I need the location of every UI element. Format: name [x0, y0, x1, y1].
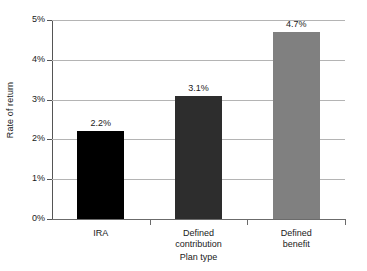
bar: [77, 131, 124, 219]
x-tick-label: Definedbenefit: [251, 228, 341, 250]
bar: [273, 32, 320, 219]
y-tick-label: 4%: [17, 55, 45, 64]
x-tick-label-line: IRA: [56, 228, 146, 239]
y-tick-mark: [47, 20, 52, 21]
x-tick-label-line: contribution: [154, 239, 244, 250]
y-tick-label: 0%: [17, 214, 45, 223]
x-tick-mark: [150, 220, 151, 225]
y-tick-label: 3%: [17, 95, 45, 104]
y-tick-mark: [47, 139, 52, 140]
y-axis-title-text: Rate of return: [5, 81, 15, 137]
y-tick-label: 2%: [17, 134, 45, 143]
y-axis-title: Rate of return: [0, 0, 20, 219]
bar: [175, 96, 222, 219]
y-tick-label: 1%: [17, 174, 45, 183]
x-axis-spine: [52, 219, 346, 220]
y-tick-mark: [47, 179, 52, 180]
bar-value-label: 3.1%: [169, 83, 229, 93]
bar-chart: Rate of return 0%1%2%3%4%5% IRADefinedco…: [0, 0, 367, 271]
x-tick-label-line: Defined: [154, 228, 244, 239]
x-tick-label-line: benefit: [251, 239, 341, 250]
bar-value-label: 2.2%: [71, 118, 131, 128]
y-tick-label: 5%: [17, 15, 45, 24]
x-tick-mark: [345, 220, 346, 225]
x-tick-label-line: Defined: [251, 228, 341, 239]
x-tick-label: Definedcontribution: [154, 228, 244, 250]
bar-value-label: 4.7%: [266, 19, 326, 29]
y-tick-mark: [47, 60, 52, 61]
x-axis-title: Plan type: [52, 252, 345, 262]
x-tick-label: IRA: [56, 228, 146, 239]
y-tick-mark: [47, 219, 52, 220]
y-tick-mark: [47, 100, 52, 101]
x-tick-mark: [247, 220, 248, 225]
